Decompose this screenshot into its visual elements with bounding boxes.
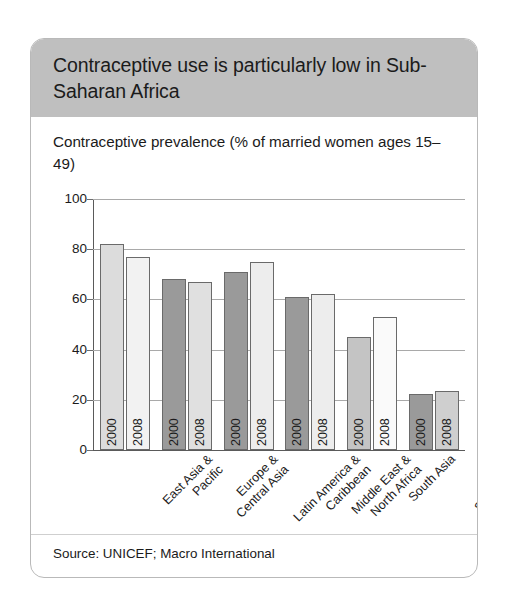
bar: 2000	[347, 337, 371, 450]
bar: 2000	[224, 272, 248, 450]
bar-year-label-wrap: 2008	[189, 402, 211, 446]
bar: 2008	[435, 391, 459, 450]
x-axis-category-label: Sub-Saharan Africa	[472, 452, 478, 526]
bar-year-label: 2008	[440, 418, 454, 446]
bar: 2000	[162, 279, 186, 450]
bar: 2008	[373, 317, 397, 450]
y-axis-tick-mark	[87, 199, 93, 200]
bar-year-label: 2008	[193, 418, 207, 446]
bar-year-label-wrap: 2000	[410, 402, 432, 446]
bar: 2008	[188, 282, 212, 450]
bar-year-label: 2000	[167, 418, 181, 446]
bar: 2008	[311, 294, 335, 450]
x-axis-category-label: Europe & Central Asia	[223, 452, 292, 521]
bar: 2008	[250, 262, 274, 450]
gridline	[93, 450, 465, 451]
page-title: Contraceptive use is particularly low in…	[53, 52, 453, 104]
bar-year-label: 2000	[290, 418, 304, 446]
y-axis-tick-label: 40	[53, 342, 87, 357]
bar-year-label: 2008	[255, 418, 269, 446]
y-axis-tick-label: 0	[53, 442, 87, 457]
bar: 2000	[100, 244, 124, 450]
y-axis-tick-mark	[87, 249, 93, 250]
bars-group: 2000200820002008200020082000200820002008…	[94, 199, 465, 450]
bar: 2000	[409, 394, 433, 450]
y-axis-tick-mark	[87, 450, 93, 451]
chart-subtitle: Contraceptive prevalence (% of married w…	[53, 131, 445, 175]
bar-year-label: 2000	[352, 418, 366, 446]
bar-year-label: 2000	[414, 418, 428, 446]
bar-year-label-wrap: 2000	[163, 402, 185, 446]
y-axis-tick-label: 100	[53, 191, 87, 206]
bar-year-label-wrap: 2000	[286, 402, 308, 446]
bar-year-label-wrap: 2000	[101, 402, 123, 446]
chart-card: Contraceptive use is particularly low in…	[30, 38, 478, 578]
bar: 2008	[126, 257, 150, 450]
bar: 2000	[285, 297, 309, 450]
y-axis-tick-label: 80	[53, 241, 87, 256]
bar-year-label-wrap: 2008	[312, 402, 334, 446]
bar-year-label-wrap: 2008	[374, 402, 396, 446]
y-axis-tick-label: 60	[53, 291, 87, 306]
y-axis-tick-mark	[87, 400, 93, 401]
chart-source: Source: UNICEF; Macro International	[53, 546, 275, 561]
y-axis-tick-mark	[87, 299, 93, 300]
bar-year-label: 2008	[131, 418, 145, 446]
bar-year-label-wrap: 2000	[348, 402, 370, 446]
bar-year-label-wrap: 2000	[225, 402, 247, 446]
bar-year-label-wrap: 2008	[436, 402, 458, 446]
source-divider	[31, 534, 477, 535]
y-axis-tick-mark	[87, 350, 93, 351]
x-axis-category-label: East Asia & Pacific	[160, 452, 227, 519]
bar-year-label: 2008	[316, 418, 330, 446]
chart-plot-area: 020406080100 200020082000200820002008200…	[53, 199, 465, 499]
bar-year-label-wrap: 2008	[127, 402, 149, 446]
bar-year-label: 2000	[229, 418, 243, 446]
bar-year-label-wrap: 2008	[251, 402, 273, 446]
bar-year-label: 2008	[378, 418, 392, 446]
card-header-band: Contraceptive use is particularly low in…	[31, 39, 477, 117]
y-axis-tick-label: 20	[53, 392, 87, 407]
bar-year-label: 2000	[105, 418, 119, 446]
